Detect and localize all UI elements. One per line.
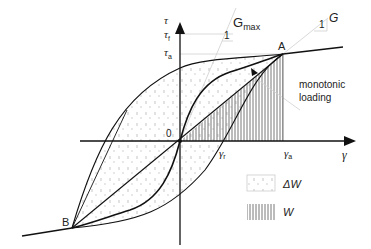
tau-f-label: τf: [164, 28, 170, 42]
gamma-a-label: γa: [284, 147, 292, 160]
origin-label: 0: [166, 128, 172, 139]
point-b-label: B: [62, 216, 69, 228]
gmax-unit-label: 1: [224, 30, 230, 41]
backbone-extension-a: [283, 47, 343, 54]
legend: ΔW W: [247, 175, 302, 220]
y-axis-label: τ: [164, 14, 169, 26]
g-unit-label: 1: [319, 19, 325, 30]
legend-label-delta-w: ΔW: [282, 178, 302, 190]
x-axis-label: γ: [342, 148, 347, 162]
legend-label-w: W: [283, 206, 295, 218]
gamma-r-label: γr: [219, 147, 226, 160]
backbone-extension-b: [22, 228, 72, 236]
x-axis-arrow: [344, 136, 356, 146]
hysteresis-diagram: τ τf τa 0 γ γr γa A B 1 Gmax 1 G monoton…: [0, 0, 371, 249]
point-a-label: A: [278, 40, 286, 52]
legend-swatch-delta-w: [247, 175, 275, 191]
gmax-label: Gmax: [233, 15, 261, 32]
legend-swatch-w: [247, 204, 275, 220]
y-axis-arrow: [175, 22, 185, 34]
origin-point: [178, 139, 182, 143]
tau-a-label: τa: [164, 46, 172, 60]
monotonic-label-line1: monotonic: [299, 79, 345, 90]
g-label: G: [329, 11, 338, 25]
monotonic-label-line2: loading: [299, 92, 331, 103]
